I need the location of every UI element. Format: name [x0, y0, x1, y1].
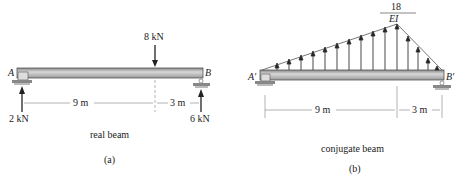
roller-support-b [193, 79, 210, 88]
dim-left-b: 9 m [315, 104, 330, 115]
dim-right-b: 3 m [412, 104, 427, 115]
peak-denominator: EI [389, 13, 398, 24]
distributed-load-arrows [275, 24, 439, 70]
point-load-label: 8 kN [144, 31, 164, 42]
point-load-arrow [152, 45, 158, 67]
dim-right-a: 3 m [170, 97, 185, 108]
peak-numerator: 18 [391, 1, 401, 12]
reaction-b-label: 6 kN [190, 113, 210, 124]
real-beam [17, 68, 203, 78]
support-a-label: A [8, 67, 14, 78]
caption-a: real beam [90, 129, 129, 140]
reaction-a-label: 2 kN [9, 113, 29, 124]
reaction-arrow-b [198, 89, 204, 112]
figure-label-a: (a) [104, 154, 115, 165]
support-b-prime-label: B′ [446, 71, 454, 82]
conjugate-beam [260, 70, 444, 80]
roller-support-b-prime [433, 81, 451, 90]
support-b-label: B [205, 67, 211, 78]
caption-b: conjugate beam [321, 143, 384, 154]
diagram-graphics [0, 0, 465, 180]
reaction-arrow-a [19, 86, 25, 112]
support-a-prime-label: A′ [248, 71, 256, 82]
figure-label-b: (b) [349, 163, 361, 174]
dim-left-a: 9 m [73, 97, 88, 108]
